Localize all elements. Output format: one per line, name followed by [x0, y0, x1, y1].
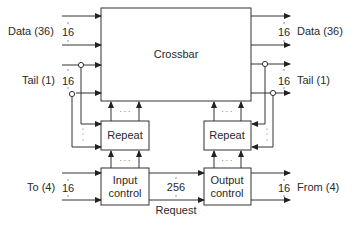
output-control-block: Output control [204, 168, 251, 205]
ellipsis: · · · [120, 108, 131, 115]
output-control-label-1: Output [210, 174, 243, 186]
to-label: To (4) [27, 181, 55, 193]
input-control-to-repeat: · · · [111, 151, 139, 168]
crossbar-block: Crossbar [101, 8, 251, 101]
right-data-label: Data (36) [297, 25, 343, 37]
right-tail-label: Tail (1) [297, 74, 330, 86]
left-data-label: Data (36) [8, 25, 54, 37]
repeat-right-block: Repeat [204, 121, 251, 150]
repeat-left-block: Repeat [101, 121, 149, 150]
repeat-left-label: Repeat [107, 129, 142, 141]
crossbar-label: Crossbar [154, 48, 199, 60]
right-tail-count: 16 [278, 75, 290, 87]
left-data-count: 16 [62, 26, 74, 38]
repeat-right-label: Repeat [209, 129, 244, 141]
bus-count: 256 [167, 181, 185, 193]
to-count: 16 [62, 182, 74, 194]
ellipsis: · · · [222, 108, 233, 115]
left-repeat-to-crossbar: · · · [111, 102, 139, 121]
input-control-label-1: Input [113, 174, 137, 186]
output-control-label-2: control [210, 187, 243, 199]
router-diagram: Crossbar Repeat Repeat Input control Out… [0, 0, 357, 225]
left-tail-label: Tail (1) [22, 74, 55, 86]
right-data-count: 16 [278, 26, 290, 38]
left-tail-feedback [72, 68, 101, 147]
input-control-block: Input control [101, 168, 149, 205]
from-label: From (4) [297, 181, 339, 193]
from-count: 16 [278, 182, 290, 194]
output-control-to-repeat: · · · [214, 151, 241, 168]
request-label: Request [156, 204, 197, 216]
ellipsis: · · · [120, 157, 131, 164]
ellipsis: · · · [222, 157, 233, 164]
right-repeat-to-crossbar: · · · [214, 102, 241, 121]
left-tail-count: 16 [62, 75, 74, 87]
input-control-label-2: control [108, 187, 141, 199]
right-tail-feedback [252, 67, 273, 147]
